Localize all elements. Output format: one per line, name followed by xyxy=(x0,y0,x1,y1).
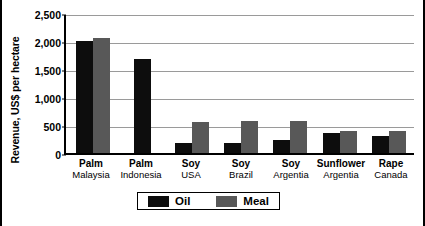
bar-meal xyxy=(192,122,209,153)
legend-label: Meal xyxy=(243,195,269,207)
y-tick-label: 500 xyxy=(43,121,61,133)
y-tick-mark xyxy=(62,43,66,44)
category-label: SunflowerArgentia xyxy=(316,158,366,180)
bar-meal xyxy=(340,131,357,153)
category-country: Indonesia xyxy=(116,170,166,181)
category-label: SoyBrazil xyxy=(216,158,266,180)
category-crop: Soy xyxy=(166,158,216,170)
bar-oil xyxy=(323,133,340,153)
category-country: Brazil xyxy=(216,170,266,181)
category-country: Canada xyxy=(366,170,416,181)
category-crop: Rape xyxy=(366,158,416,170)
bar-group xyxy=(315,15,364,153)
category-crop: Sunflower xyxy=(316,158,366,170)
category-crop: Palm xyxy=(66,158,116,170)
y-axis-title: Revenue, US$ per hectare xyxy=(6,0,24,200)
bar-oil xyxy=(76,41,93,153)
legend-swatch-oil xyxy=(148,196,169,207)
category-label: RapeCanada xyxy=(366,158,416,180)
bar-meal xyxy=(389,131,406,153)
bar-group xyxy=(117,15,166,153)
bar-groups xyxy=(68,15,414,153)
legend-label: Oil xyxy=(175,195,190,207)
y-tick-label: 2,500 xyxy=(35,9,61,21)
bar-oil xyxy=(224,143,241,153)
bar-oil xyxy=(372,136,389,153)
bar-meal xyxy=(241,121,258,153)
y-tick-label: 1,500 xyxy=(35,65,61,77)
chart-legend: OilMeal xyxy=(137,192,280,210)
category-country: Argentia xyxy=(316,170,366,181)
y-tick-label: 0 xyxy=(55,149,61,161)
plot-area: 05001,0001,5002,0002,500 xyxy=(64,15,414,155)
category-label: PalmMalaysia xyxy=(66,158,116,180)
bar-oil xyxy=(273,140,290,153)
bar-group xyxy=(266,15,315,153)
y-tick-mark xyxy=(62,127,66,128)
y-tick-mark xyxy=(62,99,66,100)
x-axis-categories: PalmMalaysiaPalmIndonesiaSoyUSASoyBrazil… xyxy=(66,158,416,180)
bar-group xyxy=(167,15,216,153)
category-label: SoyArgentia xyxy=(266,158,316,180)
bar-group xyxy=(68,15,117,153)
legend-item: Meal xyxy=(216,195,269,207)
y-tick-mark xyxy=(62,155,66,156)
category-country: Malaysia xyxy=(66,170,116,181)
legend-swatch-meal xyxy=(216,196,237,207)
y-axis-title-text: Revenue, US$ per hectare xyxy=(9,36,21,163)
legend-item: Oil xyxy=(148,195,190,207)
bar-meal xyxy=(290,121,307,153)
category-country: USA xyxy=(166,170,216,181)
category-crop: Palm xyxy=(116,158,166,170)
y-tick-mark xyxy=(62,15,66,16)
bar-oil xyxy=(175,143,192,153)
y-tick-mark xyxy=(62,71,66,72)
chart-figure: Revenue, US$ per hectare 05001,0001,5002… xyxy=(0,0,425,226)
bar-group xyxy=(365,15,414,153)
y-tick-label: 2,000 xyxy=(35,37,61,49)
category-crop: Soy xyxy=(266,158,316,170)
category-label: PalmIndonesia xyxy=(116,158,166,180)
y-tick-label: 1,000 xyxy=(35,93,61,105)
bar-group xyxy=(216,15,265,153)
category-crop: Soy xyxy=(216,158,266,170)
category-country: Argentia xyxy=(266,170,316,181)
bar-meal xyxy=(93,38,110,153)
category-label: SoyUSA xyxy=(166,158,216,180)
bar-oil xyxy=(134,59,151,153)
